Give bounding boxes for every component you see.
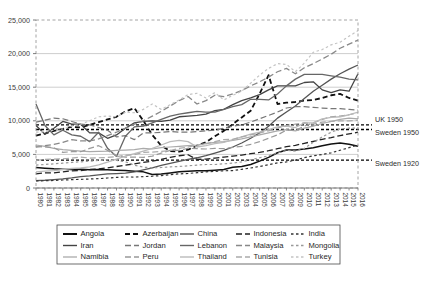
chart-legend: AngolaAzerbaijanChinaIndonesiaIndiaIranJ… bbox=[57, 225, 340, 264]
x-tick-label: 1989 bbox=[118, 193, 125, 208]
x-tick-label: 1994 bbox=[163, 193, 170, 208]
legend-label: Turkey bbox=[309, 252, 332, 261]
x-tick-label: 2010 bbox=[306, 193, 313, 208]
x-tick-label: 1986 bbox=[91, 193, 98, 208]
x-tick-label: 2009 bbox=[297, 193, 304, 208]
x-tick-label: 2014 bbox=[342, 193, 349, 208]
x-tick-label: 2005 bbox=[261, 193, 268, 208]
x-tick-label: 1990 bbox=[127, 193, 134, 208]
x-tick-label: 2006 bbox=[270, 193, 277, 208]
y-tick-label: 20,000 bbox=[8, 49, 30, 58]
x-tick-label: 1982 bbox=[55, 193, 62, 208]
x-tick-label: 2001 bbox=[225, 193, 232, 208]
legend-label: Iran bbox=[81, 241, 94, 250]
x-tick-label: 2015 bbox=[350, 193, 357, 208]
annotation-labels: UK 1950Sweden 1950Sweden 1920 bbox=[375, 115, 419, 168]
x-tick-label: 1999 bbox=[207, 193, 214, 208]
series-line-iran bbox=[36, 74, 358, 139]
x-tick-label: 2000 bbox=[216, 193, 223, 208]
legend-label: Angola bbox=[81, 229, 105, 238]
x-tick-label: 1991 bbox=[136, 193, 143, 208]
legend-label: Lebanon bbox=[198, 241, 228, 250]
x-tick-label: 1980 bbox=[37, 193, 44, 208]
legend-label: Mongolia bbox=[309, 241, 341, 250]
x-tick-label: 1993 bbox=[154, 193, 161, 208]
x-tick-label: 2012 bbox=[324, 193, 331, 208]
x-tick-label: 2004 bbox=[252, 193, 259, 208]
chart-container: 05,00010,00015,00020,00025,000 198019811… bbox=[0, 0, 430, 286]
y-tick-label: 15,000 bbox=[8, 83, 30, 92]
legend-label: Azerbaijan bbox=[143, 229, 179, 238]
y-tick-label: 25,000 bbox=[8, 16, 30, 25]
x-axis-ticks: 1980198119821983198419851986198719881989… bbox=[36, 188, 366, 207]
x-tick-label: 2011 bbox=[315, 193, 322, 207]
legend-label: Peru bbox=[143, 252, 159, 261]
y-axis-ticks: 05,00010,00015,00020,00025,000 bbox=[8, 16, 36, 193]
y-tick-label: 10,000 bbox=[8, 116, 30, 125]
x-tick-label: 2016 bbox=[359, 193, 366, 208]
line-chart: 05,00010,00015,00020,00025,000 198019811… bbox=[0, 0, 430, 286]
x-tick-label: 1992 bbox=[145, 193, 152, 208]
x-tick-label: 1985 bbox=[82, 193, 89, 208]
x-tick-label: 1987 bbox=[100, 193, 107, 208]
series-line-peru bbox=[36, 113, 358, 158]
x-tick-label: 1995 bbox=[172, 193, 179, 208]
x-tick-label: 2003 bbox=[243, 193, 250, 208]
x-tick-label: 2008 bbox=[288, 193, 295, 208]
x-tick-label: 2013 bbox=[333, 193, 340, 208]
legend-label: Namibia bbox=[81, 252, 110, 261]
legend-label: Malaysia bbox=[254, 241, 285, 250]
legend-label: Thailand bbox=[198, 252, 227, 261]
x-tick-label: 1983 bbox=[64, 193, 71, 208]
annotation-sweden-1950: Sweden 1950 bbox=[375, 128, 419, 137]
x-tick-label: 1998 bbox=[198, 193, 205, 208]
legend-label: Jordan bbox=[143, 241, 166, 250]
x-tick-label: 1984 bbox=[73, 193, 80, 208]
x-tick-label: 1988 bbox=[109, 193, 116, 208]
y-tick-label: 5,000 bbox=[12, 150, 30, 159]
x-tick-label: 2007 bbox=[279, 193, 286, 208]
x-tick-label: 2002 bbox=[234, 193, 241, 208]
x-tick-label: 1996 bbox=[181, 193, 188, 208]
series-line-azerbaijan bbox=[36, 75, 358, 152]
annotation-uk-1950: UK 1950 bbox=[375, 115, 403, 124]
legend-label: India bbox=[309, 229, 326, 238]
legend-label: Indonesia bbox=[254, 229, 288, 238]
annotation-sweden-1920: Sweden 1920 bbox=[375, 159, 419, 168]
legend-label: China bbox=[198, 229, 219, 238]
x-tick-label: 1981 bbox=[46, 193, 53, 208]
legend-label: Tunisia bbox=[254, 252, 279, 261]
x-tick-label: 1997 bbox=[189, 193, 196, 208]
y-tick-label: 0 bbox=[26, 184, 30, 193]
